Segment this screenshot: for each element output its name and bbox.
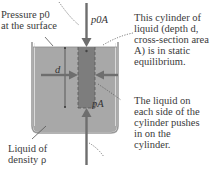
container [32, 42, 118, 133]
top-force-arrow [82, 3, 92, 47]
surface-pressure-line-1: Pressure p0 [1, 9, 57, 20]
cylinder-note: This cylinder of liquid (depth d, cross-… [134, 12, 209, 67]
leader-surface [45, 37, 53, 46]
liquid-density-label: Liquid of density ρ [8, 143, 47, 165]
side-note-line-3: cylinder pushes [134, 117, 200, 128]
top-force-label: p0A [91, 14, 108, 25]
leader-bottom [89, 143, 104, 157]
bottom-force-label: pA [92, 98, 104, 109]
liquid-note-line-1: Liquid of [8, 143, 47, 154]
leader-top [59, 2, 79, 25]
cylinder-note-line-2: liquid (depth d, [134, 23, 209, 34]
side-note: The liquid on each side of the cylinder … [134, 95, 200, 150]
cylinder-note-line-5: equilibrium. [134, 56, 209, 67]
cylinder-note-line-3: cross-section area [134, 34, 209, 45]
surface-pressure-label: Pressure p0 at the surface [1, 9, 57, 31]
liquid-body [33, 47, 117, 132]
side-note-line-5: cylinder. [134, 139, 200, 150]
surface-pressure-line-2: at the surface [1, 20, 57, 31]
side-note-line-1: The liquid on [134, 95, 200, 106]
depth-label: d [55, 64, 60, 75]
liquid-note-line-2: density ρ [8, 154, 47, 165]
pressure-diagram: Pressure p0 at the surface p0A pA d This… [0, 0, 210, 169]
side-note-line-2: each side of the [134, 106, 200, 117]
cylinder-note-line-4: A) is in static [134, 45, 209, 56]
side-note-line-4: in on the [134, 128, 200, 139]
bottom-force-arrow [82, 108, 92, 165]
cylinder-note-line-1: This cylinder of [134, 12, 209, 23]
